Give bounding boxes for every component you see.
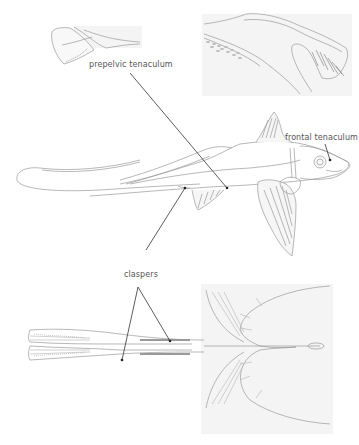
prepelvic-leader-line — [130, 73, 227, 188]
claspers-leader-line-right — [138, 287, 170, 341]
claspers-label: claspers — [124, 270, 158, 279]
frontal-endpoint-dot — [329, 159, 332, 162]
claspers-leader-line-upper — [146, 188, 185, 250]
clasper-right-endpoint-dot — [169, 340, 172, 343]
clasper-left-endpoint-dot — [121, 359, 124, 362]
ventral-view-drawing — [29, 286, 331, 424]
tubercle-dots — [206, 41, 242, 59]
frontal-tenaculum-drawing — [204, 14, 348, 94]
prepelvic-endpoint-dot — [226, 187, 229, 190]
illustration-canvas — [0, 0, 359, 445]
prepelvic-tenaculum-drawing — [52, 27, 140, 64]
leader-endpoints — [121, 159, 332, 362]
prepelvic-tenaculum-label: prepelvic tenaculum — [89, 60, 173, 69]
frontal-leader-line — [325, 144, 330, 160]
claspers-leader-line-left — [122, 287, 138, 360]
clasper-lateral-endpoint-dot — [184, 187, 187, 190]
frontal-tenaculum-label: frontal tenaculum — [285, 133, 358, 142]
leader-lines — [122, 73, 330, 360]
